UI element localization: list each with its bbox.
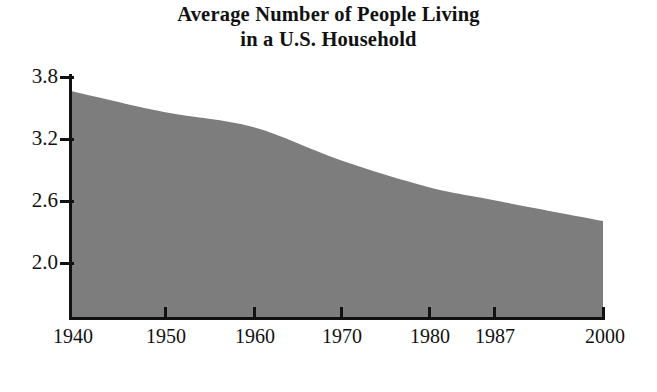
- chart-figure: Average Number of People Living in a U.S…: [0, 0, 657, 392]
- y-tick-label-3-8: 3.8: [2, 66, 58, 87]
- chart-title-line-2: in a U.S. Household: [0, 27, 657, 52]
- y-tick-label-3-2: 3.2: [2, 128, 58, 149]
- chart-title: Average Number of People Living in a U.S…: [0, 2, 657, 52]
- y-tick-mark-3-2: [60, 138, 74, 141]
- area-fill-path: [71, 91, 603, 318]
- x-axis-line: [69, 317, 605, 320]
- x-tick-mark-1970: [340, 307, 343, 318]
- plot-area: [71, 76, 603, 318]
- x-tick-label-1960: 1960: [213, 324, 297, 348]
- x-tick-mark-1950: [164, 307, 167, 318]
- y-tick-label-2-0: 2.0: [2, 252, 58, 273]
- x-tick-label-1987: 1987: [453, 324, 537, 348]
- y-tick-label-wrap-1: 3.8: [0, 66, 58, 87]
- area-series-household-size: [71, 76, 603, 318]
- y-tick-label-2-6: 2.6: [2, 190, 58, 211]
- y-tick-label-wrap-3: 2.6: [0, 190, 58, 211]
- x-tick-label-2000: 2000: [563, 324, 647, 348]
- x-tick-mark-1987: [493, 307, 496, 318]
- y-tick-mark-2-6: [60, 200, 74, 203]
- y-tick-mark-3-8: [60, 76, 74, 79]
- x-tick-label-1950: 1950: [124, 324, 208, 348]
- x-tick-mark-1980: [428, 307, 431, 318]
- y-tick-label-wrap-2: 3.2: [0, 128, 58, 149]
- chart-title-line-1: Average Number of People Living: [0, 2, 657, 27]
- y-tick-label-wrap-4: 2.0: [0, 252, 58, 273]
- x-tick-mark-1960: [253, 307, 256, 318]
- x-tick-label-1940: 1940: [31, 324, 115, 348]
- y-tick-mark-2-0: [60, 262, 74, 265]
- x-tick-label-1970: 1970: [300, 324, 384, 348]
- x-tick-mark-2000: [602, 307, 605, 318]
- y-axis-line: [69, 74, 72, 320]
